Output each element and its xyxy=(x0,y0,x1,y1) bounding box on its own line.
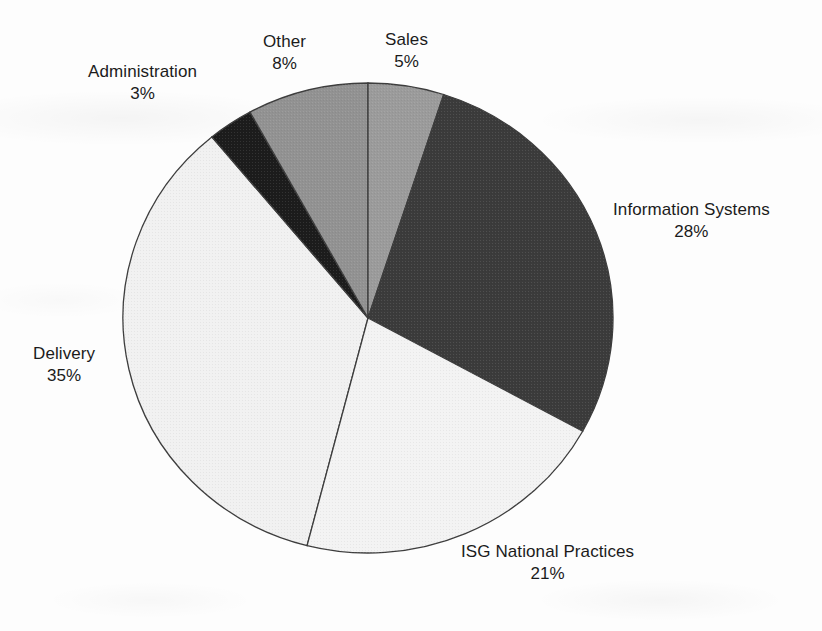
pie-label-delivery-value: 35% xyxy=(33,365,95,387)
pie-label-other: Other 8% xyxy=(263,31,306,76)
pie-label-delivery-name: Delivery xyxy=(33,343,95,365)
pie-scan-overlay xyxy=(123,83,613,553)
pie-label-sales-value: 5% xyxy=(385,51,428,73)
pie-label-administration-name: Administration xyxy=(88,61,197,83)
pie-label-administration: Administration 3% xyxy=(88,61,197,106)
pie-label-information-systems-value: 28% xyxy=(613,221,770,243)
pie-label-sales: Sales 5% xyxy=(385,29,428,74)
pie-label-isg-national-practices-value: 21% xyxy=(461,563,634,585)
pie-label-isg-national-practices-name: ISG National Practices xyxy=(461,541,634,563)
pie-label-delivery: Delivery 35% xyxy=(33,343,95,388)
chart-page: Other 8% Sales 5% Administration 3% Info… xyxy=(0,0,822,631)
pie-label-administration-value: 3% xyxy=(88,83,197,105)
pie-label-sales-name: Sales xyxy=(385,29,428,51)
pie-label-isg-national-practices: ISG National Practices 21% xyxy=(461,541,634,586)
pie-label-other-value: 8% xyxy=(263,53,306,75)
pie-label-information-systems: Information Systems 28% xyxy=(613,199,770,244)
pie-label-other-name: Other xyxy=(263,31,306,53)
pie-label-information-systems-name: Information Systems xyxy=(613,199,770,221)
